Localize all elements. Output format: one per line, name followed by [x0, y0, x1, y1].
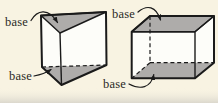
label-prism-bottom-base: base [9, 69, 32, 83]
label-cube-bottom-base: base [103, 77, 126, 91]
prisms-diagram: base base base base [0, 0, 218, 103]
label-cube-top-base: base [112, 7, 135, 21]
textbook-figure: base base base base [0, 0, 218, 103]
label-prism-top-base: base [5, 15, 28, 29]
rectangular-prism [132, 16, 214, 78]
